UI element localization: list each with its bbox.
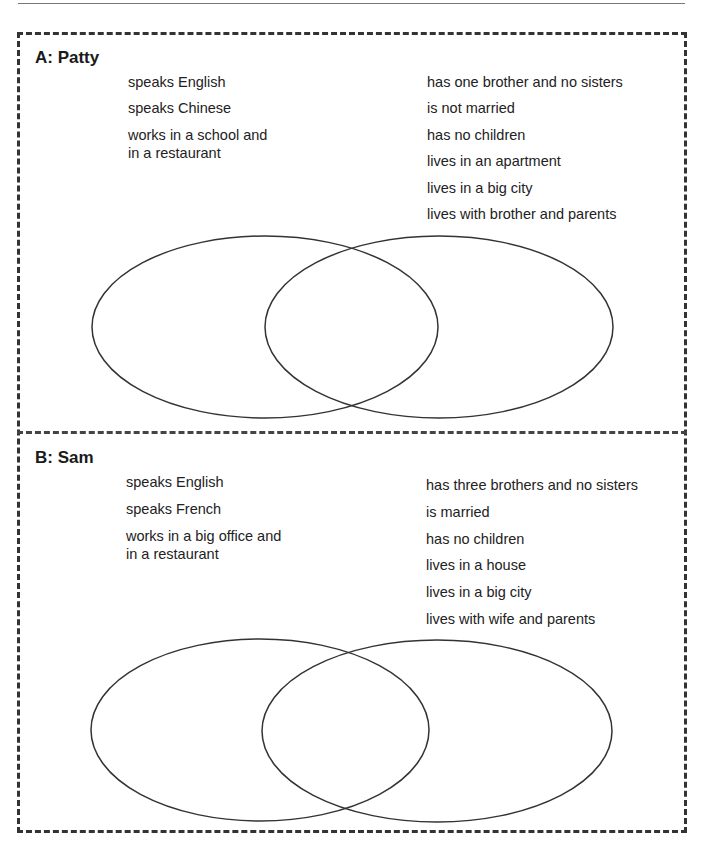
venn-diagram-b <box>0 0 703 867</box>
venn-circle-left[interactable] <box>91 639 429 821</box>
venn-circle-right[interactable] <box>262 640 612 822</box>
